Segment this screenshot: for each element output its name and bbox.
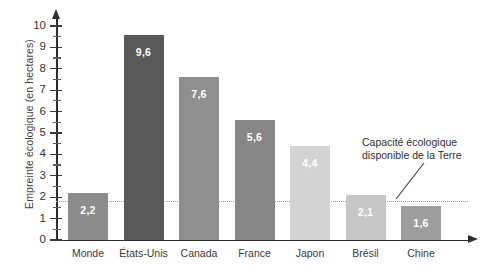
bar-value-label: 4,4 (290, 157, 330, 169)
y-tick-label: 2 (18, 191, 46, 203)
y-tick-label: 4 (18, 148, 46, 160)
bars-container: 2,29,67,65,64,42,11,6 (56, 18, 470, 240)
x-label-chine: Chine (387, 247, 455, 259)
bar-tats-unis: 9,6 (124, 35, 164, 240)
annotation-line-1: Capacité écologique (362, 136, 481, 149)
bar-japon: 4,4 (290, 146, 330, 240)
y-tick-label: 0 (18, 234, 46, 246)
bar-value-label: 7,6 (179, 88, 219, 100)
bar-france: 5,6 (235, 120, 275, 240)
bar-value-label: 5,6 (235, 131, 275, 143)
y-tick-label: 6 (18, 106, 46, 118)
y-tick-label: 9 (18, 41, 46, 53)
bar-monde: 2,2 (68, 193, 108, 240)
y-tick-label: 3 (18, 170, 46, 182)
ecological-footprint-bar-chart: Empreinte écologique (en hectares) 01234… (0, 0, 481, 268)
y-tick-label: 8 (18, 63, 46, 75)
y-tick-label: 1 (18, 213, 46, 225)
y-tick-label: 10 (18, 20, 46, 32)
ecological-capacity-annotation: Capacité écologique disponible de la Ter… (362, 136, 481, 162)
bar-br-sil: 2,1 (346, 195, 386, 240)
y-tick-label: 5 (18, 127, 46, 139)
y-tick-label: 7 (18, 84, 46, 96)
bar-value-label: 1,6 (401, 217, 441, 229)
bar-chine: 1,6 (401, 206, 441, 240)
bar-value-label: 2,1 (346, 206, 386, 218)
bar-canada: 7,6 (179, 77, 219, 240)
bar-value-label: 2,2 (68, 204, 108, 216)
bar-value-label: 9,6 (124, 46, 164, 58)
annotation-line-2: disponible de la Terre (362, 149, 481, 162)
